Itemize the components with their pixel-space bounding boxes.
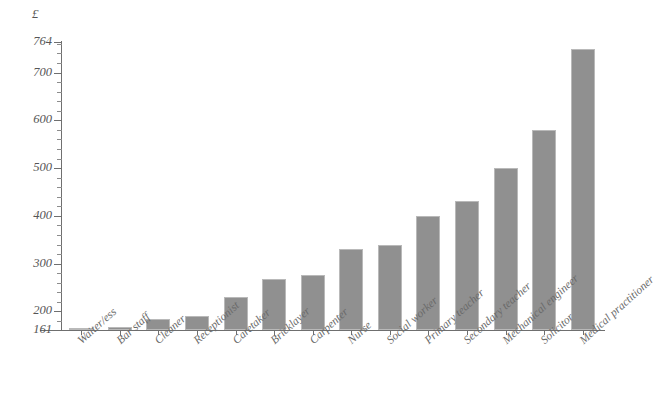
y-tick-mark (54, 73, 62, 74)
y-tick-label: 700 (4, 66, 52, 79)
y-tick-label: 200 (4, 304, 52, 317)
y-tick-mark (54, 216, 62, 217)
y-tick-label: 300 (4, 257, 52, 270)
y-tick-mark (54, 330, 62, 331)
y-tick-mark (54, 120, 62, 121)
bar (301, 275, 325, 330)
currency-unit-label: £ (32, 6, 39, 22)
y-tick-mark (54, 311, 62, 312)
y-tick-label: 161 (4, 323, 52, 336)
y-tick-label: 764 (4, 35, 52, 48)
y-tick-mark (54, 168, 62, 169)
y-tick-label: 600 (4, 113, 52, 126)
y-tick-label: 500 (4, 161, 52, 174)
bar (378, 245, 402, 330)
y-tick-mark (54, 264, 62, 265)
y-tick-label: 400 (4, 209, 52, 222)
bar (571, 49, 595, 330)
y-tick-mark (54, 42, 62, 43)
